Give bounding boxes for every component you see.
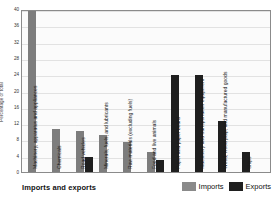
bar-group: Food and live animals bbox=[147, 11, 171, 172]
category-label: Ships bbox=[246, 156, 252, 169]
bar-group: Machinery and transportation equipment bbox=[195, 11, 219, 172]
bar-group: Ships bbox=[242, 11, 266, 172]
bar-group: Minerals, fuels, and lubricants bbox=[99, 11, 123, 172]
legend: ImportsExports bbox=[182, 182, 271, 191]
bar-group: Chemicals bbox=[52, 11, 76, 172]
legend-item-exports[interactable]: Exports bbox=[229, 182, 271, 191]
category-label: Paper and paper board bbox=[175, 117, 181, 169]
legend-swatch-exports bbox=[229, 182, 243, 191]
category-label: Raw materials (excluding fuels) bbox=[127, 99, 133, 169]
y-axis-title: Percentage of total bbox=[0, 60, 4, 144]
bar-group: Wood, wood pulp, and manufactured goods bbox=[218, 11, 242, 172]
legend-swatch-imports bbox=[182, 182, 196, 191]
category-label: Food and live animals bbox=[151, 120, 157, 169]
bar-group: Road vehicles bbox=[76, 11, 100, 172]
category-label: Chemicals bbox=[56, 145, 62, 169]
chart-footer: Imports and exports ImportsExports bbox=[0, 178, 277, 203]
y-tick-label: 36 bbox=[0, 24, 19, 29]
bar-groups: Machinery, apparatus and appliancesChemi… bbox=[22, 11, 270, 172]
category-label: Road vehicles bbox=[80, 137, 86, 169]
y-tick-label: 0 bbox=[0, 171, 19, 176]
footer-title: Imports and exports bbox=[22, 183, 96, 192]
y-tick-label: 40 bbox=[0, 8, 19, 13]
legend-label-imports: Imports bbox=[199, 182, 224, 191]
plot-area: Machinery, apparatus and appliancesChemi… bbox=[21, 10, 271, 173]
category-label: Machinery and transportation equipment bbox=[199, 79, 205, 169]
category-label: Minerals, fuels, and lubricants bbox=[103, 102, 109, 169]
y-tick-label: 32 bbox=[0, 40, 19, 45]
legend-item-imports[interactable]: Imports bbox=[182, 182, 224, 191]
bar-group: Machinery, apparatus and appliances bbox=[28, 11, 52, 172]
bar-group: Paper and paper board bbox=[171, 11, 195, 172]
chart-figure: 4036322824201612840 Percentage of total … bbox=[0, 0, 277, 203]
bar-exports bbox=[156, 160, 164, 172]
category-label: Machinery, apparatus and appliances bbox=[32, 86, 38, 169]
legend-label-exports: Exports bbox=[246, 182, 271, 191]
category-label: Wood, wood pulp, and manufactured goods bbox=[222, 72, 228, 169]
bar-group: Raw materials (excluding fuels) bbox=[123, 11, 147, 172]
y-tick-label: 4 bbox=[0, 154, 19, 159]
